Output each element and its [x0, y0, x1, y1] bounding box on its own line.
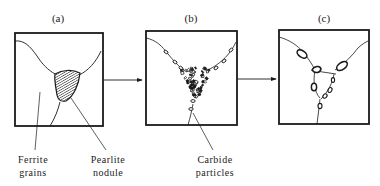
carbide-label-line1: Carbide: [197, 154, 232, 165]
carbide-particle: [181, 71, 184, 74]
coarse-carbide: [296, 48, 309, 60]
carbide-particle: [191, 75, 193, 77]
carbide-particle: [189, 108, 193, 111]
carbide-particle: [198, 88, 200, 90]
grain-boundary-left: [146, 38, 184, 70]
carbide-particle: [201, 84, 203, 86]
panel-c: [279, 30, 369, 124]
carbide-particle: [194, 80, 198, 83]
coarse-carbide: [327, 87, 333, 93]
carbide-particle: [206, 70, 208, 73]
carbide-particle: [191, 100, 195, 103]
coarse-carbide: [335, 60, 349, 72]
panel-label-a: (a): [52, 12, 65, 25]
carbide-particle: [204, 67, 207, 70]
panel-label-b: (b): [185, 12, 198, 25]
grain-boundary-bottom: [317, 99, 320, 124]
carbide-particle: [221, 59, 226, 64]
ferrite-leader-line: [35, 92, 40, 150]
pearlite-leader-line: [71, 98, 106, 150]
grain-boundary-left: [15, 41, 55, 74]
carbide-particle: [190, 70, 192, 72]
pearlite-nodule: [55, 70, 80, 101]
carbide-particle: [190, 90, 192, 92]
carbide-particle: [163, 50, 168, 55]
boundary-carbides: [163, 47, 233, 110]
carbide-particle: [172, 60, 177, 65]
carbide-particle: [194, 94, 196, 96]
coarse-carbide: [312, 66, 321, 72]
coarse-carbide: [331, 78, 334, 83]
carbide-particle: [228, 47, 233, 52]
panel-b: [146, 31, 237, 150]
pearlite-label-line1: Pearlite: [91, 154, 126, 165]
ferrite-label-line1: Ferrite: [18, 154, 48, 165]
panel-a: [15, 33, 106, 150]
grain-boundary-bottom: [188, 104, 193, 125]
carbide-particle: [198, 93, 201, 96]
coarse-carbide: [318, 103, 322, 108]
grain-boundary-bottom: [50, 102, 60, 126]
carbide-particle: [201, 70, 204, 73]
carbide-particle: [205, 77, 208, 80]
panel-label-c: (c): [318, 12, 331, 25]
carbide-particle: [188, 77, 191, 80]
carbide-particle: [197, 90, 199, 93]
coarse-carbide: [322, 93, 328, 99]
carbide-particle: [194, 67, 196, 69]
coarse-carbide: [311, 83, 316, 91]
carbide-leader-line: [193, 113, 213, 150]
microstructure-evolution-diagram: (a) (b) (c): [0, 0, 380, 186]
pearlite-label-line2: nodule: [93, 167, 123, 178]
carbide-label-line2: particles: [196, 167, 234, 178]
grain-boundary-right: [79, 51, 101, 75]
grain-boundary-right: [208, 42, 236, 70]
carbide-particle: [184, 76, 187, 79]
carbide-particle-cluster: [180, 67, 210, 98]
panel-c-frame: [279, 30, 369, 124]
ferrite-label-line2: grains: [19, 167, 46, 178]
carbide-particle: [200, 86, 202, 89]
